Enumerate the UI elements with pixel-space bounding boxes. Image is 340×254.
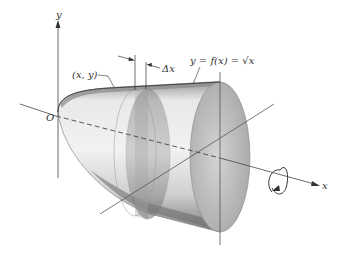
curve-leader: [193, 67, 200, 84]
y-axis-arrowhead: [56, 20, 61, 28]
curve-label: y = f(x) = √x: [190, 56, 254, 66]
figure-canvas: y x O (x, y) Δx y = f(x) = √x: [0, 0, 340, 254]
point-label: (x, y): [72, 70, 97, 80]
y-axis-label: y: [56, 10, 62, 20]
paraboloid-diagram: [0, 0, 340, 254]
x-axis-arrowhead: [311, 181, 320, 186]
point-leader: [98, 75, 114, 87]
origin-label: O: [46, 113, 54, 123]
rotation-arrow-icon: [269, 168, 288, 194]
x-axis-label: x: [322, 181, 328, 191]
delta-x-label: Δx: [162, 64, 175, 74]
